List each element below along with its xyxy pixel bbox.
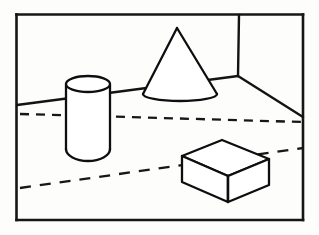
canvas-background xyxy=(0,0,319,235)
cylinder xyxy=(66,76,110,162)
scene-canvas xyxy=(0,0,319,235)
room-corner-post xyxy=(238,15,239,76)
cylinder-top-ellipse xyxy=(66,76,110,92)
cone-base-front-arc xyxy=(143,94,217,101)
line-drawing-scene: Perspective line drawing of three solids… xyxy=(0,0,319,235)
